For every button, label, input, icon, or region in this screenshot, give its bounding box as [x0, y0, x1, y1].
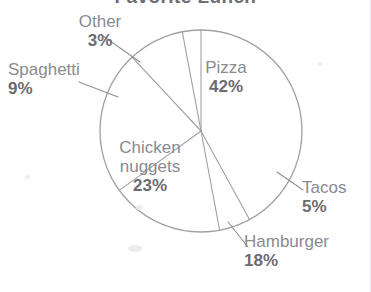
slice-label-other: Other 3% — [60, 12, 140, 50]
slice-label-tacos: Tacos 5% — [302, 178, 368, 216]
slice-label-chicken-nuggets-name-line2: nuggets — [102, 157, 198, 176]
slice-label-chicken-nuggets-value: 23% — [102, 176, 198, 195]
slice-label-hamburger: Hamburger 18% — [244, 232, 366, 270]
slice-label-hamburger-value: 18% — [244, 251, 366, 270]
slice-label-other-value: 3% — [60, 31, 140, 50]
slice-label-hamburger-name: Hamburger — [244, 232, 366, 251]
slice-label-chicken-nuggets: Chicken nuggets 23% — [102, 138, 198, 195]
slice-label-pizza-value: 42% — [186, 77, 266, 96]
slice-label-spaghetti-name: Spaghetti — [8, 60, 118, 79]
slice-label-spaghetti: Spaghetti 9% — [8, 60, 118, 98]
slice-label-tacos-name: Tacos — [302, 178, 368, 197]
slice-label-pizza: Pizza 42% — [186, 58, 266, 96]
slice-label-spaghetti-value: 9% — [8, 79, 118, 98]
slice-label-chicken-nuggets-name-line1: Chicken — [102, 138, 198, 157]
slice-label-tacos-value: 5% — [302, 197, 368, 216]
slice-label-pizza-name: Pizza — [186, 58, 266, 77]
slice-label-other-name: Other — [60, 12, 140, 31]
pie-chart-figure: Favorite Lunch — [0, 0, 371, 292]
